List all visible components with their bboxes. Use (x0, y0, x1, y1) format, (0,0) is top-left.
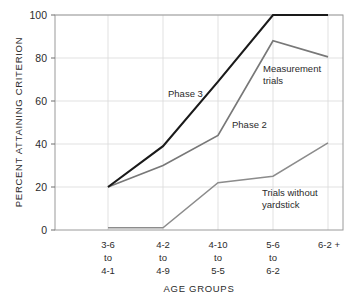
y-tick-label-20: 20 (35, 181, 47, 193)
x-tick-label-4-line2: to (269, 252, 277, 263)
y-tick-label-100: 100 (29, 9, 47, 21)
y-tick-label-80: 80 (35, 52, 47, 64)
trials-without-yardstick-label-line2: yardstick (262, 199, 300, 210)
x-tick-label-5-line1: 6-2 + (318, 239, 340, 250)
x-tick-label-2-line1: 4-2 (156, 239, 170, 250)
line-chart-svg: 100 80 60 40 20 0 PERCENT ATTAINING CRIT… (0, 0, 355, 298)
x-tick-label-3-line2: to (214, 252, 222, 263)
phase-2-label: Phase 2 (232, 119, 267, 130)
y-axis-title: PERCENT ATTAINING CRITERION (13, 37, 24, 207)
phase-3-label: Phase 3 (168, 88, 203, 99)
x-tick-label-3-line1: 4-10 (208, 239, 227, 250)
trials-without-yardstick-label-line1: Trials without (262, 187, 318, 198)
x-tick-label-2-line3: 4-9 (156, 265, 170, 276)
x-axis-title: AGE GROUPS (164, 283, 235, 294)
x-tick-label-2-line2: to (159, 252, 167, 263)
chart-figure: 100 80 60 40 20 0 PERCENT ATTAINING CRIT… (0, 0, 355, 298)
x-tick-label-1-line1: 3-6 (101, 239, 115, 250)
y-tickmarks (51, 15, 55, 230)
measurement-trials-label-line1: Measurement (263, 63, 321, 74)
y-tick-labels: 100 80 60 40 20 0 (29, 9, 47, 236)
y-tick-label-0: 0 (41, 224, 47, 236)
x-tick-label-1-line3: 4-1 (101, 265, 115, 276)
y-tick-label-40: 40 (35, 138, 47, 150)
x-tick-label-3-line3: 5-5 (211, 265, 225, 276)
y-tick-label-60: 60 (35, 95, 47, 107)
x-tick-label-4-line3: 6-2 (266, 265, 280, 276)
measurement-trials-label-line2: trials (263, 75, 283, 86)
x-tick-label-1-line2: to (104, 252, 112, 263)
x-tick-label-4-line1: 5-6 (266, 239, 280, 250)
x-tick-labels: 3-6 to 4-1 4-2 to 4-9 4-10 to 5-5 5-6 to… (101, 239, 340, 276)
